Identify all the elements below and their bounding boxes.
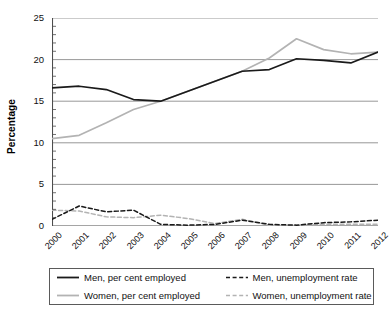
x-axis-tick-label: 2002 [97,230,118,251]
x-axis-tick-label: 2004 [151,230,172,251]
y-axis-title: Percentage [4,66,18,186]
legend-label: Men, per cent employed [84,272,186,283]
x-axis-tick-label: 2008 [260,230,281,251]
legend-swatch-solid-gray-icon [57,291,79,300]
legend-item-women-unemployment: Women, unemployment rate [212,290,374,301]
x-axis-tick-labels: 2000200120022003200420052006200720082009… [52,226,378,266]
legend-item-women-employed: Women, per cent employed [50,290,212,301]
x-axis-tick-label: 2012 [369,230,390,251]
x-axis-tick-label: 2000 [43,230,64,251]
legend-label: Men, unemployment rate [253,272,358,283]
x-axis-tick-label: 2007 [233,230,254,251]
plot-area [52,18,378,226]
chart-legend: Men, per cent employed Men, unemployment… [49,268,374,305]
x-axis-tick-label: 2011 [342,230,363,251]
x-axis-tick-label: 2006 [206,230,227,251]
legend-item-men-employed: Men, per cent employed [50,272,212,283]
y-axis-tick-label: 5 [24,180,44,190]
x-axis-tick-label: 2009 [287,230,308,251]
legend-label: Women, per cent employed [84,290,200,301]
x-axis-tick-label: 2005 [179,230,200,251]
y-axis-tick-label: 20 [24,55,44,65]
x-axis-tick-label: 2001 [70,230,91,251]
legend-swatch-solid-black-icon [57,273,79,282]
x-axis-tick-label: 2010 [314,230,335,251]
y-axis-title-label: Percentage [6,99,17,154]
y-axis-tick-label: 15 [24,96,44,106]
legend-item-men-unemployment: Men, unemployment rate [212,272,374,283]
legend-swatch-dashed-black-icon [226,273,248,282]
y-axis-tick-label: 0 [24,221,44,231]
plot-svg [52,18,378,226]
legend-label: Women, unemployment rate [253,290,372,301]
legend-swatch-dashed-gray-icon [226,291,248,300]
y-axis-tick-label: 10 [24,138,44,148]
y-axis-tick-label: 25 [24,13,44,23]
y-axis-tick-labels: 0510152025 [22,0,44,313]
x-axis-tick-label: 2003 [124,230,145,251]
